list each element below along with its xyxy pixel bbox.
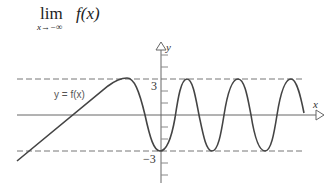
curve-label: y = f(x) [54, 89, 85, 100]
x-axis-arrow-icon [316, 110, 324, 120]
x-axis-label: x [312, 98, 318, 110]
y-axis-arrow-icon [156, 42, 166, 50]
lower-bound-label: −3 [143, 152, 156, 166]
upper-bound-label: 3 [151, 79, 157, 93]
y-axis-label: y [165, 41, 171, 53]
function-graph: y = f(x) 3 −3 x y [0, 0, 331, 185]
